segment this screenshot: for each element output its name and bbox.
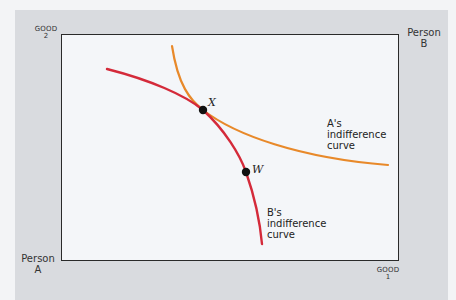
b-curve-label-line2: indifference xyxy=(267,218,326,229)
b-curve-label-line1: B's xyxy=(267,207,326,218)
b-curve-label: B's indifference curve xyxy=(267,207,326,240)
b-indifference-curve xyxy=(107,69,262,244)
a-curve-label: A's indifference curve xyxy=(327,118,386,151)
b-curve-label-line3: curve xyxy=(267,229,326,240)
point-w xyxy=(242,168,250,176)
a-curve-label-line1: A's xyxy=(327,118,386,129)
a-curve-label-line3: curve xyxy=(327,140,386,151)
point-w-label: W xyxy=(252,163,263,176)
point-x-label: X xyxy=(208,96,216,109)
point-x xyxy=(199,106,207,114)
a-curve-label-line2: indifference xyxy=(327,129,386,140)
